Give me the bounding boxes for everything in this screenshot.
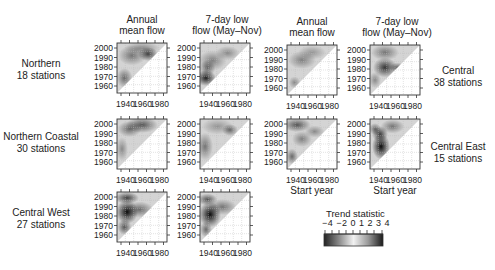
y-tick-label: 1990 <box>340 55 366 65</box>
y-tick-label: 1970 <box>170 148 196 158</box>
x-tick-label: 1980 <box>233 175 252 185</box>
heatmap-panel: 20001990198019701960194019601980 <box>257 113 347 187</box>
y-tick-label: 1970 <box>170 72 196 82</box>
y-tick-label: 1970 <box>340 148 366 158</box>
x-tick-label: 1980 <box>233 99 252 109</box>
heatmap-panel: 20001990198019701960194019601980 <box>170 186 260 260</box>
y-tick-label: 1980 <box>87 138 113 148</box>
y-tick-label: 1990 <box>87 129 113 139</box>
y-tick-label: 1980 <box>87 62 113 72</box>
x-tick-label: 1980 <box>403 101 422 111</box>
column-header-line2: mean flow <box>102 25 182 36</box>
row-label-northern: Northern 18 stations <box>0 58 86 82</box>
column-header-line2: mean flow <box>272 27 352 38</box>
column-header-line1: Annual <box>102 14 182 25</box>
colorbar-tick-labels: −4 −2 0 1 2 3 4 <box>322 218 390 228</box>
y-tick-label: 1980 <box>170 62 196 72</box>
heatmap-panel: 20001990198019701960194019601980 <box>87 37 177 111</box>
x-tick-label: 1980 <box>150 175 169 185</box>
y-tick-label: 1960 <box>87 81 113 91</box>
heatmap-panel: 20001990198019701960194019601980 <box>170 37 260 111</box>
row-label-central-west: Central West 27 stations <box>0 207 86 231</box>
y-tick-label: 1980 <box>340 64 366 74</box>
y-tick-label: 1960 <box>87 230 113 240</box>
column-header-annual-mean-flow-left: Annual mean flow <box>102 14 182 36</box>
y-tick-label: 1960 <box>340 157 366 167</box>
y-tick-label: 1980 <box>340 138 366 148</box>
x-axis-label: Start year <box>355 185 435 196</box>
x-tick-label: 1980 <box>233 248 252 258</box>
y-tick-label: 1980 <box>170 138 196 148</box>
y-tick-label: 1960 <box>257 157 283 167</box>
y-tick-label: 1990 <box>87 202 113 212</box>
row-label-name: Northern Coastal <box>0 131 86 143</box>
y-tick-label: 2000 <box>257 45 283 55</box>
y-tick-label: 2000 <box>170 119 196 129</box>
x-tick-label: 1980 <box>320 175 339 185</box>
column-header-line2: flow (May–Nov) <box>354 27 440 38</box>
y-tick-label: 2000 <box>340 45 366 55</box>
y-tick-label: 2000 <box>170 43 196 53</box>
y-tick-label: 1990 <box>170 202 196 212</box>
y-tick-label: 2000 <box>340 119 366 129</box>
column-header-7day-low-flow-right: 7-day low flow (May–Nov) <box>354 16 440 38</box>
column-header-line1: Annual <box>272 16 352 27</box>
y-tick-label: 1960 <box>340 83 366 93</box>
y-tick-label: 1960 <box>170 230 196 240</box>
column-header-7day-low-flow-left: 7-day low flow (May–Nov) <box>184 14 270 36</box>
y-tick-label: 1970 <box>257 74 283 84</box>
y-tick-label: 1970 <box>170 221 196 231</box>
y-tick-label: 1970 <box>87 72 113 82</box>
y-tick-label: 1980 <box>170 211 196 221</box>
row-label-count: 27 stations <box>0 219 86 231</box>
heatmap-panel: 20001990198019701960194019601980 <box>257 39 347 113</box>
x-axis-label: Start year <box>272 185 352 196</box>
column-header-annual-mean-flow-right: Annual mean flow <box>272 16 352 38</box>
y-tick-label: 1990 <box>170 129 196 139</box>
heatmap-panel: 20001990198019701960194019601980 <box>340 113 430 187</box>
x-tick-label: 1980 <box>403 175 422 185</box>
heatmap-panel: 20001990198019701960194019601980 <box>170 113 260 187</box>
y-tick-label: 1960 <box>87 157 113 167</box>
y-tick-label: 1970 <box>87 221 113 231</box>
y-tick-label: 1990 <box>257 129 283 139</box>
y-tick-label: 1960 <box>170 157 196 167</box>
row-label-count: 18 stations <box>0 70 86 82</box>
row-label-name: Central West <box>0 207 86 219</box>
heatmap-panel: 20001990198019701960194019601980 <box>87 186 177 260</box>
y-tick-label: 1990 <box>340 129 366 139</box>
y-tick-label: 1990 <box>257 55 283 65</box>
y-tick-label: 1970 <box>340 74 366 84</box>
y-tick-label: 1960 <box>257 83 283 93</box>
colorbar-gradient <box>323 228 385 248</box>
heatmap-panel: 20001990198019701960194019601980 <box>340 39 430 113</box>
y-tick-label: 1990 <box>87 53 113 63</box>
y-tick-label: 1980 <box>257 64 283 74</box>
y-tick-label: 2000 <box>257 119 283 129</box>
y-tick-label: 2000 <box>87 119 113 129</box>
y-tick-label: 1970 <box>257 148 283 158</box>
y-tick-label: 2000 <box>170 192 196 202</box>
column-header-line2: flow (May–Nov) <box>184 25 270 36</box>
x-tick-label: 1980 <box>150 99 169 109</box>
x-tick-label: 1980 <box>150 248 169 258</box>
heatmap-panel: 20001990198019701960194019601980 <box>87 113 177 187</box>
y-tick-label: 2000 <box>87 192 113 202</box>
y-tick-label: 2000 <box>87 43 113 53</box>
y-tick-label: 1990 <box>170 53 196 63</box>
row-label-name: Northern <box>0 58 86 70</box>
y-tick-label: 1980 <box>87 211 113 221</box>
x-tick-label: 1980 <box>320 101 339 111</box>
y-tick-label: 1960 <box>170 81 196 91</box>
row-label-northern-coastal: Northern Coastal 30 stations <box>0 131 86 155</box>
row-label-count: 30 stations <box>0 143 86 155</box>
y-tick-label: 1970 <box>87 148 113 158</box>
column-header-line1: 7-day low <box>184 14 270 25</box>
y-tick-label: 1980 <box>257 138 283 148</box>
column-header-line1: 7-day low <box>354 16 440 27</box>
